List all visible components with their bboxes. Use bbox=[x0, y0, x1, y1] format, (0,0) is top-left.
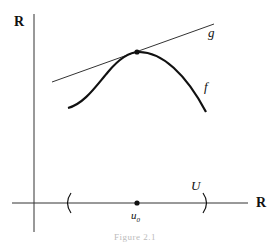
u0-subscript: 0 bbox=[137, 216, 141, 224]
point-u0 bbox=[134, 200, 139, 205]
point-label-u0: u0 bbox=[131, 210, 140, 224]
diagram-canvas bbox=[0, 0, 274, 244]
f-label: f bbox=[204, 80, 208, 93]
curve-f bbox=[68, 52, 206, 112]
figure-caption: Figure 2.1 bbox=[114, 233, 156, 242]
interval-label-U: U bbox=[191, 179, 200, 192]
vertical-axis-label: R bbox=[14, 15, 24, 29]
horizontal-axis-label: R bbox=[256, 196, 266, 210]
tangent-point bbox=[134, 49, 139, 54]
g-label: g bbox=[208, 26, 215, 39]
